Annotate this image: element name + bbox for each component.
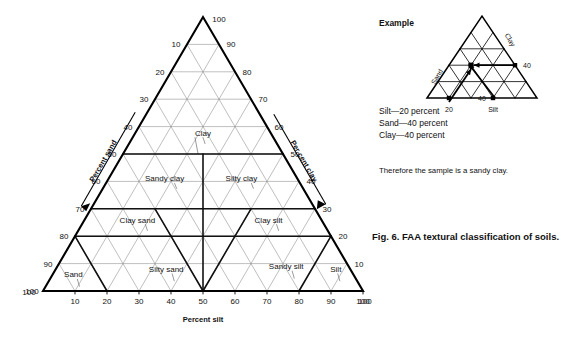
leader-line: [172, 274, 174, 281]
example-value-silt: Silt—20 percent: [379, 105, 448, 117]
mini-triangle-outline: [427, 16, 537, 98]
tick-right-10: 10: [355, 260, 364, 269]
tick-right-corner-100: 100: [358, 297, 372, 306]
leader-line: [145, 225, 147, 231]
tick-left-30: 30: [140, 95, 149, 104]
region-label-silty-clay: Silty clay: [226, 174, 258, 183]
grid-layer: [59, 44, 363, 294]
tick-right-20: 20: [339, 232, 348, 241]
figure-root: 1001020304050607080901001009080706050403…: [0, 0, 562, 339]
mini-tick-clay: 40: [523, 62, 531, 69]
tick-bottom-50: 50: [199, 297, 208, 306]
arrow-silt: [449, 69, 471, 102]
mini-ternary: 404020ClaySandSilt: [427, 16, 537, 113]
axis-label-left: Percent sand: [87, 138, 119, 184]
tick-bottom-80: 80: [295, 297, 304, 306]
marker-silt: [447, 96, 451, 100]
tick-bottom-40: 40: [167, 297, 176, 306]
tick-left-80: 80: [60, 232, 69, 241]
mini-axis-silt: Silt: [488, 106, 498, 113]
axis-label-bottom: Percent silt: [183, 315, 224, 324]
tick-right-90: 90: [227, 40, 236, 49]
tick-right-80: 80: [243, 68, 252, 77]
leader-line: [292, 271, 294, 278]
tick-bottom-20: 20: [103, 297, 112, 306]
example-heading: Example: [379, 18, 414, 28]
ternary-diagram: 1001020304050607080901001009080706050403…: [0, 0, 400, 339]
example-mini-diagram: 404020ClaySandSilt: [415, 6, 550, 116]
tick-bottom-30: 30: [135, 297, 144, 306]
region-label-clay-silt: Clay silt: [255, 216, 284, 225]
boundary-silt-50-upper: [235, 209, 251, 236]
marker-clay: [513, 63, 517, 67]
region-label-sand: Sand: [64, 270, 83, 279]
example-values: Silt—20 percent Sand—40 percent Clay—40 …: [379, 105, 448, 141]
tick-bottom-90: 90: [327, 297, 336, 306]
region-label-sandy-silt: Sandy silt: [269, 262, 304, 271]
mini-tick-sand: 40: [478, 95, 486, 102]
mini-grid-silt-80: [515, 82, 526, 98]
mini-grid-sand-80: [438, 82, 449, 98]
leader-line: [203, 138, 205, 144]
labels-layer: 1001020304050607080901001009080706050403…: [22, 15, 372, 324]
region-label-sandy-clay: Sandy clay: [145, 174, 184, 183]
leader-line: [338, 274, 340, 281]
tick-bottom-70: 70: [263, 297, 272, 306]
leader-line: [251, 183, 253, 188]
figure-caption: Fig. 6. FAA textural classification of s…: [372, 231, 559, 242]
leader-line: [277, 225, 279, 231]
mini-axis-clay: Clay: [503, 32, 517, 49]
example-value-sand: Sand—40 percent: [379, 117, 448, 129]
tick-apex-100: 100: [212, 15, 226, 24]
tick-left-20: 20: [156, 68, 165, 77]
region-label-silt: Silt: [330, 265, 342, 274]
arrow-clay: [474, 63, 513, 68]
tick-bottom-10: 10: [71, 297, 80, 306]
tick-right-70: 70: [259, 95, 268, 104]
region-label-silty-sand: Silty sand: [149, 265, 184, 274]
tick-left-10: 10: [172, 40, 181, 49]
axis-label-right: Per cent clay: [288, 139, 319, 184]
tick-left-90: 90: [44, 260, 53, 269]
tick-bottom-60: 60: [231, 297, 240, 306]
arrow-sand: [469, 64, 495, 98]
tick-right-30: 30: [323, 205, 332, 214]
marker-sand: [491, 96, 495, 100]
region-label-clay-sand: Clay sand: [120, 216, 156, 225]
leader-line: [195, 138, 198, 154]
boundary-sand-50-upper: [155, 209, 171, 236]
example-conclusion: Therefore the sample is a sandy clay.: [379, 166, 508, 175]
region-label-clay: Clay: [195, 129, 211, 138]
example-value-clay: Clay—40 percent: [379, 129, 448, 141]
axis-arrow-left: [81, 112, 135, 211]
tick-left-100: 100: [25, 287, 39, 296]
